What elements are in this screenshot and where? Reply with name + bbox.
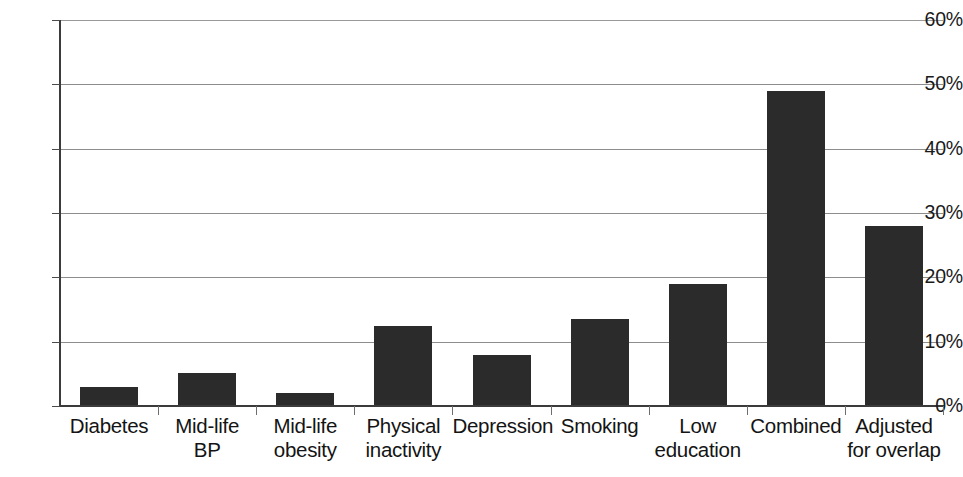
y-axis-tick-20	[52, 277, 60, 278]
y-axis-label-20: 20%	[909, 267, 963, 287]
x-axis-label: Low education	[649, 414, 747, 462]
gridline-60	[60, 20, 943, 21]
x-axis-label: Mid-life BP	[158, 414, 256, 462]
y-axis-tick-10	[52, 342, 60, 343]
gridline-50	[60, 84, 943, 85]
x-axis-label: Diabetes	[60, 414, 158, 438]
y-axis-label-10: 10%	[909, 332, 963, 352]
x-axis-label: Depression	[452, 414, 550, 438]
x-axis-label: Adjusted for overlap	[845, 414, 943, 462]
bar	[178, 373, 236, 406]
y-axis-tick-60	[52, 20, 60, 21]
x-axis-label: Combined	[747, 414, 845, 438]
bar	[865, 226, 923, 406]
x-axis-label: Physical inactivity	[354, 414, 452, 462]
y-axis-tick-0	[52, 406, 60, 407]
bar	[767, 91, 825, 406]
x-axis-tick	[943, 406, 944, 415]
bar	[80, 387, 138, 406]
y-axis-label-50: 50%	[909, 74, 963, 94]
x-axis-label: Smoking	[551, 414, 649, 438]
y-axis-label-0: 0%	[909, 396, 963, 416]
bar	[473, 355, 531, 406]
bar	[669, 284, 727, 406]
y-axis-tick-30	[52, 213, 60, 214]
x-axis-label: Mid-life obesity	[256, 414, 354, 462]
plot-area	[60, 20, 943, 406]
bar	[571, 319, 629, 406]
y-axis-tick-50	[52, 84, 60, 85]
y-axis-label-60: 60%	[909, 10, 963, 30]
bar	[374, 326, 432, 406]
y-axis-label-30: 30%	[909, 203, 963, 223]
x-axis-line	[60, 405, 944, 407]
y-axis-label-40: 40%	[909, 139, 963, 159]
y-axis-tick-40	[52, 149, 60, 150]
bar-chart: 60%50%40%30%20%10%0% DiabetesMid-life BP…	[0, 0, 963, 477]
